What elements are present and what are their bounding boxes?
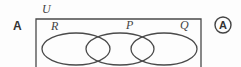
answer-option-label: A — [219, 19, 227, 31]
question-label: A — [13, 19, 22, 33]
set-p-ellipse — [86, 33, 154, 65]
set-label-r: R — [50, 19, 59, 33]
universal-set-label: U — [42, 2, 52, 16]
set-q-ellipse — [131, 33, 197, 65]
universal-set-rectangle — [36, 19, 201, 67]
venn-diagram: A U R P Q A — [0, 0, 241, 67]
set-r-ellipse — [42, 33, 110, 65]
set-label-p: P — [125, 18, 134, 32]
answer-option-circle[interactable]: A — [215, 17, 231, 33]
set-label-q: Q — [180, 18, 189, 32]
